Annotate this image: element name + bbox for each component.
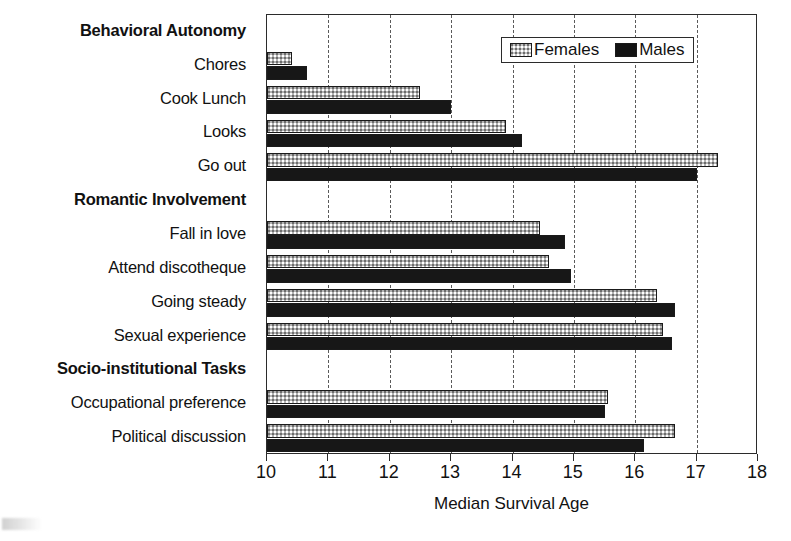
x-tick-18 — [757, 454, 758, 461]
legend-label-males: Males — [639, 41, 684, 58]
x-tick-label-14: 14 — [501, 462, 521, 483]
bar-females-political-discussion — [267, 424, 675, 438]
category-label-occupational-preference: Occupational preference — [71, 394, 246, 411]
group-header-romantic-involvement: Romantic Involvement — [74, 191, 246, 208]
bar-females-fall-in-love — [267, 221, 540, 235]
bar-females-occupational-preference — [267, 390, 608, 404]
category-label-sexual-experience: Sexual experience — [114, 327, 246, 344]
bar-males-sexual-experience — [267, 337, 672, 351]
legend-entry-females: Females — [510, 41, 599, 58]
x-axis-title: Median Survival Age — [266, 494, 757, 514]
bar-females-going-steady — [267, 289, 657, 303]
x-tick-11 — [327, 454, 328, 461]
plot-area: Females Males — [266, 14, 757, 454]
x-tick-13 — [450, 454, 451, 461]
x-tick-label-13: 13 — [440, 462, 460, 483]
bar-females-sexual-experience — [267, 323, 663, 337]
x-tick-label-17: 17 — [686, 462, 706, 483]
x-tick-label-10: 10 — [256, 462, 276, 483]
x-tick-10 — [266, 454, 267, 461]
legend: Females Males — [501, 37, 694, 63]
category-label-chores: Chores — [194, 56, 246, 73]
group-header-behavioral-autonomy: Behavioral Autonomy — [80, 22, 246, 39]
bar-males-cook-lunch — [267, 100, 451, 114]
bar-males-fall-in-love — [267, 235, 565, 249]
x-tick-12 — [389, 454, 390, 461]
x-tick-15 — [573, 454, 574, 461]
bar-females-go-out — [267, 153, 718, 167]
category-label-going-steady: Going steady — [151, 293, 246, 310]
bar-males-going-steady — [267, 303, 675, 317]
bar-males-attend-discotheque — [267, 269, 571, 283]
bar-females-attend-discotheque — [267, 255, 549, 269]
bar-males-occupational-preference — [267, 405, 605, 419]
x-tick-label-18: 18 — [747, 462, 767, 483]
gridline-15 — [574, 15, 575, 453]
gridline-17 — [697, 15, 698, 453]
legend-swatch-females-icon — [510, 43, 532, 57]
category-label-cook-lunch: Cook Lunch — [160, 90, 246, 107]
x-tick-label-11: 11 — [318, 462, 337, 483]
gridline-16 — [635, 15, 636, 453]
category-label-go-out: Go out — [198, 157, 246, 174]
x-tick-16 — [634, 454, 635, 461]
bar-males-chores — [267, 66, 307, 80]
bar-males-looks — [267, 134, 522, 148]
legend-swatch-males-icon — [615, 43, 637, 57]
category-label-political-discussion: Political discussion — [112, 428, 246, 445]
median-survival-age-bar-chart: Behavioral AutonomyChoresCook LunchLooks… — [0, 0, 791, 541]
bar-females-chores — [267, 52, 292, 66]
bar-females-looks — [267, 120, 506, 134]
bar-males-political-discussion — [267, 439, 644, 453]
x-tick-14 — [512, 454, 513, 461]
category-label-attend-discotheque: Attend discotheque — [108, 259, 246, 276]
bar-males-go-out — [267, 168, 697, 182]
category-label-fall-in-love: Fall in love — [170, 225, 246, 242]
group-header-socio-institutional-tasks: Socio-institutional Tasks — [57, 360, 246, 377]
x-tick-label-15: 15 — [563, 462, 583, 483]
x-tick-label-12: 12 — [379, 462, 399, 483]
x-tick-17 — [696, 454, 697, 461]
category-label-column: Behavioral AutonomyChoresCook LunchLooks… — [0, 14, 256, 454]
legend-label-females: Females — [534, 41, 599, 58]
category-label-looks: Looks — [203, 123, 246, 140]
legend-entry-males: Males — [615, 41, 684, 58]
scan-artifact — [2, 518, 42, 530]
bar-females-cook-lunch — [267, 86, 420, 100]
x-tick-label-16: 16 — [624, 462, 644, 483]
